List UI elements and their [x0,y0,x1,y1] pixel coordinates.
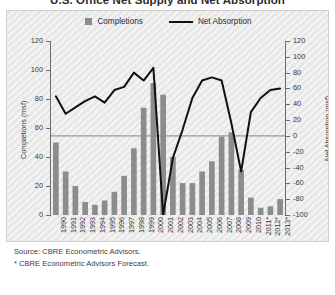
x-axis-tick-label: 2009 [244,217,253,233]
y-axis-right-tick [285,136,290,137]
x-axis-tick-label: 2005 [205,217,214,233]
bar-completions [248,198,254,215]
y-axis-right-tick-label: -80 [293,195,323,203]
bar-completions [102,201,108,216]
bar-completions [180,183,186,215]
x-axis-tick-label: 1997 [127,217,136,233]
x-axis-tick-label: 2006 [215,217,224,233]
chart-canvas [51,41,285,215]
x-axis-tick-label: 2010 [254,217,263,233]
y-axis-left-tick-label: 120 [7,37,43,45]
bar-completions [141,108,147,215]
y-axis-right-tick [285,168,290,169]
y-axis-right-tick-label: -40 [293,164,323,172]
bar-completions [268,206,274,215]
y-axis-left-tick [46,157,51,158]
bar-completions [209,161,215,215]
y-axis-left-tick-label: 100 [7,66,43,74]
footnote-forecast: * CBRE Econometric Advisors Forecast. [14,258,149,270]
y-axis-right-tick [285,199,290,200]
legend-label-completions: Completions [97,17,143,26]
y-axis-left-tick [46,186,51,187]
y-axis-right-tick [285,41,290,42]
x-axis-tick-label: 1993 [88,217,97,233]
y-axis-right-tick [285,73,290,74]
footnote-source: Source: CBRE Econometric Advisors. [14,246,149,258]
x-axis-tick-label: 1999 [147,217,156,233]
chart-figure: U.S. Office Net Supply and Net Absorptio… [0,0,335,295]
y-axis-left-tick [46,215,51,216]
y-axis-right-tick [285,57,290,58]
x-axis-tick-label: 2004 [195,217,204,233]
x-axis-tick-label: 1994 [98,217,107,233]
bar-completions [53,143,59,216]
y-axis-right-tick-label: 100 [293,53,323,61]
bar-completions [73,186,79,215]
x-axis-tick-label: 2012* [273,217,282,236]
bar-completions [131,148,137,215]
y-axis-right-tick [285,183,290,184]
bar-completions [219,137,225,215]
y-axis-right-tick [285,152,290,153]
x-axis-tick-label: 2001 [166,217,175,233]
x-axis-tick-label: 1995 [108,217,117,233]
y-axis-right-tick [285,88,290,89]
bar-completions [258,208,264,215]
y-axis-right-tick [285,104,290,105]
y-axis-right-tick-label: 20 [293,116,323,124]
x-axis-tick-label: 2000 [156,217,165,233]
y-axis-right-title: Net Absorption (msf) [323,95,329,161]
y-axis-right-tick-label: -100 [293,211,323,219]
x-axis-tick-label: 1992 [78,217,87,233]
y-axis-left-title: Completions (msf) [19,101,28,159]
x-axis-tick-label: 2002 [176,217,185,233]
y-axis-left-tick [46,128,51,129]
y-axis-right-tick-label: -60 [293,179,323,187]
bar-completions [63,172,69,216]
x-axis-tick-label: 1990 [59,217,68,233]
y-axis-right-tick [285,120,290,121]
y-axis-left-tick-label: 0 [7,211,43,219]
y-axis-right-tick-label: 0 [293,132,323,140]
y-axis-right-tick-label: 40 [293,100,323,108]
x-axis-tick-label: 2008 [234,217,243,233]
x-axis-tick-label: 2013* [283,217,292,236]
bar-completions [277,199,283,215]
y-axis-right-tick-label: -20 [293,148,323,156]
chart-title: U.S. Office Net Supply and Net Absorptio… [0,0,335,7]
y-axis-left-tick [46,70,51,71]
legend-item-net-absorption: Net Absorption [169,17,252,26]
legend-label-net-absorption: Net Absorption [198,17,252,26]
x-axis-labels: 1990199119921993199419951996199719981999… [51,217,285,242]
line-swatch-icon [169,21,193,23]
x-axis-tick-label: 2011* [264,217,273,235]
y-axis-left-tick-label: 20 [7,182,43,190]
bar-completions [190,183,196,215]
x-axis-tick-label: 2003 [186,217,195,233]
y-axis-left-tick [46,41,51,42]
bar-completions [82,202,88,215]
y-axis-right-line [285,41,286,216]
y-axis-right-tick-label: 60 [293,84,323,92]
bar-completions [229,132,235,215]
bar-completions [112,192,118,215]
chart-series-container [51,41,285,215]
chart-footnotes: Source: CBRE Econometric Advisors. * CBR… [14,246,149,270]
bar-completions [199,172,205,216]
legend-item-completions: Completions [85,17,143,26]
y-axis-left-tick [46,99,51,100]
x-axis-tick-label: 1996 [117,217,126,233]
x-axis-tick-label: 1991 [69,217,78,233]
bar-completions [121,176,127,215]
y-axis-right-tick-label: 80 [293,69,323,77]
chart-plot-area: Completions Net Absorption 0204060801001… [6,10,329,242]
bar-completions [92,205,98,215]
chart-legend: Completions Net Absorption [7,17,329,26]
x-axis-tick-label: 2007 [225,217,234,233]
line-net-absorption [56,68,280,215]
x-axis-tick-label: 1998 [137,217,146,233]
bar-completions [238,170,244,215]
y-axis-right-tick-label: 120 [293,37,323,45]
bar-swatch-icon [85,18,92,25]
